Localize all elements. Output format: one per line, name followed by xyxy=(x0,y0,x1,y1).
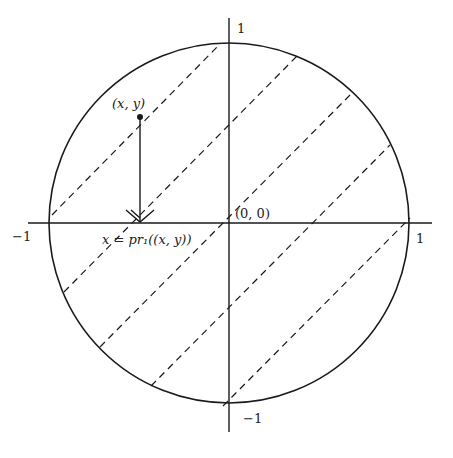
x-left-label: −1 xyxy=(12,230,31,243)
point-dot xyxy=(137,114,143,120)
diagram-canvas xyxy=(0,0,453,458)
dashed-chords xyxy=(52,44,410,406)
point-label: (x, y) xyxy=(112,97,145,110)
y-bottom-label: −1 xyxy=(243,412,262,425)
dashed-chord xyxy=(64,56,297,292)
dashed-chord xyxy=(151,145,390,386)
x-right-label: 1 xyxy=(416,232,424,245)
dashed-chord xyxy=(223,218,410,406)
y-top-label: 1 xyxy=(237,22,245,35)
origin-label: (0, 0) xyxy=(235,207,270,220)
projection-label: x = pr₁((x, y)) xyxy=(102,233,191,246)
